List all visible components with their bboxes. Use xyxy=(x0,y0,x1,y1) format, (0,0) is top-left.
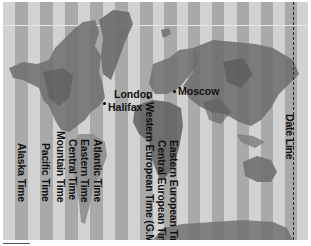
city-dot-halifax xyxy=(103,102,106,105)
tz-label-western-european: Western European Time (G.M.T.) xyxy=(144,102,156,240)
tz-label-central: Central Time xyxy=(67,139,79,200)
greenland xyxy=(99,10,133,80)
tz-label-atlantic: Atlantic Time xyxy=(92,139,104,202)
tz-label-pacific: Pacific Time xyxy=(40,143,52,202)
city-label-moscow: Moscow xyxy=(178,85,219,97)
scale-bar xyxy=(3,243,30,244)
city-label-halifax: Halifax xyxy=(108,101,142,113)
city-dot-moscow xyxy=(173,90,176,93)
world-time-zone-map: Date Line Alaska Time Pacific Time Mount… xyxy=(3,2,308,240)
tz-label-mountain: Mountain Time xyxy=(55,131,67,202)
date-line-label: Date Line xyxy=(284,114,296,159)
tz-label-eastern-european: Eastern European Time xyxy=(168,140,180,240)
tz-label-alaska: Alaska Time xyxy=(16,143,28,202)
australia xyxy=(243,156,277,182)
tz-label-central-european: Central European Time xyxy=(156,140,168,240)
tz-label-eastern: Eastern Time xyxy=(79,139,91,202)
city-dot-london xyxy=(147,96,150,99)
